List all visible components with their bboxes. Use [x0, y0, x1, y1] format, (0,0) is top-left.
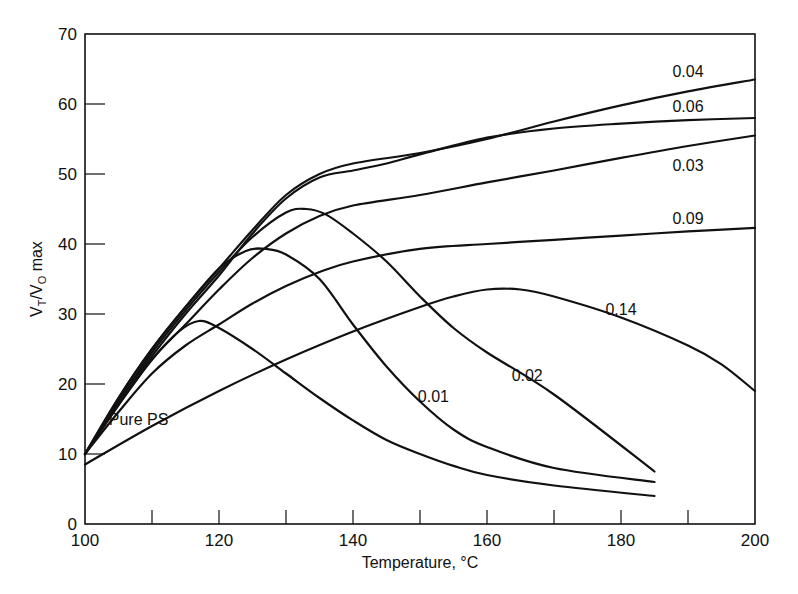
curve-0-03 — [85, 136, 755, 455]
x-tick-label: 100 — [71, 531, 99, 550]
curve-label-0-03: 0.03 — [672, 157, 703, 174]
y-tick-label: 50 — [58, 165, 77, 184]
plot-frame — [85, 34, 755, 524]
x-tick-label: 120 — [205, 531, 233, 550]
y-tick-label: 40 — [58, 235, 77, 254]
x-tick-label: 200 — [741, 531, 769, 550]
x-tick-label: 160 — [473, 531, 501, 550]
curve-label-0-01: 0.01 — [418, 388, 449, 405]
x-axis-title: Temperature, °C — [362, 554, 479, 571]
x-tick-label: 180 — [607, 531, 635, 550]
curve-labels: Pure PS0.010.020.030.040.060.090.14 — [109, 63, 704, 427]
chart: 010203040506070100120140160180200 Pure P… — [0, 0, 798, 594]
y-tick-label: 20 — [58, 375, 77, 394]
y-tick-label: 30 — [58, 305, 77, 324]
axis-ticks: 010203040506070100120140160180200 — [58, 25, 769, 550]
y-axis-title: VT/VO max — [28, 241, 48, 317]
curves — [85, 80, 755, 497]
curve-0-01 — [85, 248, 655, 482]
curve-label-0-02: 0.02 — [512, 367, 543, 384]
x-tick-label: 140 — [339, 531, 367, 550]
y-tick-label: 10 — [58, 445, 77, 464]
curve-0-09 — [85, 228, 755, 454]
curve-label-0-06: 0.06 — [672, 98, 703, 115]
y-tick-label: 60 — [58, 95, 77, 114]
curve-label-0-09: 0.09 — [672, 210, 703, 227]
curve-label-0-04: 0.04 — [672, 63, 703, 80]
svg-text:VT/VO max: VT/VO max — [28, 241, 48, 317]
curve-label-pure-ps: Pure PS — [109, 411, 169, 428]
y-tick-label: 70 — [58, 25, 77, 44]
curve-label-0-14: 0.14 — [605, 301, 636, 318]
